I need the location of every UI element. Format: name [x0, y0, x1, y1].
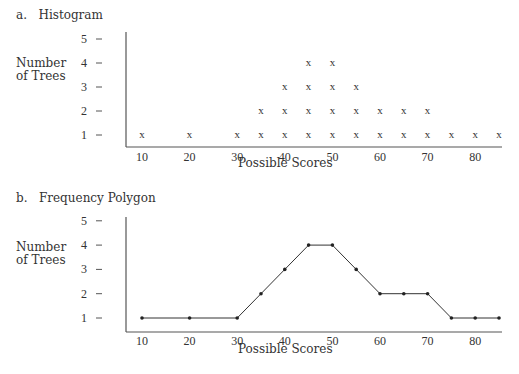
x-marker: x [234, 128, 240, 140]
x-tick-label: 10 [136, 150, 148, 164]
data-point [450, 316, 454, 320]
x-marker: x [377, 104, 383, 116]
x-marker: x [377, 128, 383, 140]
x-marker: x [330, 104, 336, 116]
y-tick-label: 1 [81, 311, 87, 325]
data-point [473, 316, 477, 320]
x-tick-label: 40 [279, 150, 291, 164]
charts-canvas: 123451020304050607080xxxxxxxxxxxxxxxxxxx… [0, 0, 519, 374]
x-marker: x [139, 128, 145, 140]
x-marker: x [282, 104, 288, 116]
y-tick-label: 1 [81, 128, 87, 142]
x-tick-label: 20 [184, 334, 196, 348]
y-tick-label: 4 [81, 238, 87, 252]
data-point [402, 292, 406, 296]
x-tick-label: 50 [326, 334, 338, 348]
x-tick-label: 80 [469, 150, 481, 164]
x-marker: x [258, 104, 264, 116]
x-marker: x [401, 128, 407, 140]
x-marker: x [353, 80, 359, 92]
x-tick-label: 20 [184, 150, 196, 164]
x-marker: x [330, 80, 336, 92]
x-tick-label: 40 [279, 334, 291, 348]
y-tick-label: 5 [81, 32, 87, 46]
x-marker: x [425, 128, 431, 140]
x-marker: x [282, 80, 288, 92]
y-tick-label: 5 [81, 214, 87, 228]
frequency-line [142, 245, 499, 318]
x-marker: x [306, 128, 312, 140]
x-tick-label: 30 [231, 334, 243, 348]
x-tick-label: 10 [136, 334, 148, 348]
x-marker: x [187, 128, 193, 140]
x-marker: x [449, 128, 455, 140]
data-point [283, 268, 287, 272]
data-point [188, 316, 192, 320]
x-marker: x [306, 104, 312, 116]
x-tick-label: 60 [374, 334, 386, 348]
data-point [426, 292, 430, 296]
x-marker: x [306, 56, 312, 68]
x-marker: x [258, 128, 264, 140]
data-point [354, 268, 358, 272]
x-tick-label: 70 [422, 334, 434, 348]
x-tick-label: 60 [374, 150, 386, 164]
x-marker: x [425, 104, 431, 116]
data-point [259, 292, 263, 296]
data-point [140, 316, 144, 320]
y-tick-label: 2 [81, 287, 87, 301]
y-tick-label: 2 [81, 104, 87, 118]
data-point [378, 292, 382, 296]
x-tick-label: 50 [326, 150, 338, 164]
y-tick-label: 4 [81, 56, 87, 70]
data-point [307, 243, 311, 247]
data-point [331, 243, 335, 247]
x-marker: x [330, 56, 336, 68]
data-point [235, 316, 239, 320]
x-tick-label: 80 [469, 334, 481, 348]
x-marker: x [472, 128, 478, 140]
x-marker: x [353, 104, 359, 116]
data-point [497, 316, 501, 320]
x-tick-label: 70 [422, 150, 434, 164]
x-tick-label: 30 [231, 150, 243, 164]
x-marker: x [330, 128, 336, 140]
x-marker: x [282, 128, 288, 140]
y-tick-label: 3 [81, 262, 87, 276]
x-marker: x [353, 128, 359, 140]
x-marker: x [496, 128, 502, 140]
x-marker: x [306, 80, 312, 92]
y-tick-label: 3 [81, 80, 87, 94]
x-marker: x [401, 104, 407, 116]
